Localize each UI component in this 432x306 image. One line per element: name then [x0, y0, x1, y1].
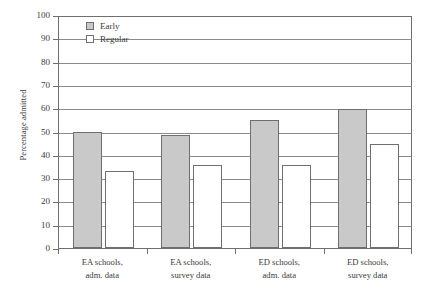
legend-label-early: Early — [100, 21, 120, 31]
bar-early-3 — [250, 120, 279, 248]
legend-label-regular: Regular — [100, 34, 129, 44]
y-tick-label-10: 10 — [0, 221, 50, 230]
x-axis-label-3-line-2: adm. data — [235, 269, 324, 282]
gridline-100 — [59, 16, 412, 17]
x-axis-label-4-line-2: survey data — [324, 269, 413, 282]
x-axis-label-4-line-1: ED schools, — [347, 257, 389, 267]
gridline-70 — [59, 86, 412, 87]
x-tick-mark-4 — [411, 249, 412, 254]
y-tick-label-60: 60 — [0, 104, 50, 113]
bar-chart-figure: Percentage admitted 10090807060504030201… — [0, 0, 432, 306]
y-tick-label-90: 90 — [0, 34, 50, 43]
y-tick-label-20: 20 — [0, 197, 50, 206]
x-axis-tick-marks — [58, 249, 412, 255]
gray-swatch-icon — [86, 22, 94, 30]
white-swatch-icon — [86, 35, 94, 43]
y-tick-label-30: 30 — [0, 174, 50, 183]
plot-area — [58, 16, 412, 249]
x-tick-mark-0 — [58, 249, 59, 254]
bar-regular-1 — [105, 171, 134, 248]
x-tick-mark-3 — [324, 249, 325, 254]
bar-regular-4 — [370, 144, 399, 248]
bar-early-2 — [161, 135, 190, 248]
x-axis-label-2-line-2: survey data — [147, 269, 236, 282]
x-axis-label-1: EA schools,adm. data — [58, 256, 147, 281]
chart-legend: Early Regular — [86, 19, 166, 45]
y-tick-label-80: 80 — [0, 58, 50, 67]
bar-regular-3 — [282, 165, 311, 248]
x-axis-label-3-line-1: ED schools, — [258, 257, 300, 267]
y-axis-tick-labels: 1009080706050403020100 — [0, 16, 54, 249]
x-axis-label-3: ED schools,adm. data — [235, 256, 324, 281]
gridline-80 — [59, 63, 412, 64]
x-axis-label-2-line-1: EA schools, — [170, 257, 211, 267]
bar-early-1 — [73, 132, 102, 249]
x-axis-label-2: EA schools,survey data — [147, 256, 236, 281]
y-tick-label-40: 40 — [0, 151, 50, 160]
legend-item-early: Early — [86, 19, 166, 32]
bar-early-4 — [338, 109, 367, 248]
x-axis-label-4: ED schools,survey data — [324, 256, 413, 281]
y-tick-label-0: 0 — [0, 244, 50, 253]
x-axis-labels: EA schools,adm. dataEA schools,survey da… — [58, 256, 412, 296]
x-tick-mark-2 — [235, 249, 236, 254]
x-axis-label-1-line-1: EA schools, — [82, 257, 123, 267]
x-tick-mark-1 — [147, 249, 148, 254]
x-axis-label-1-line-2: adm. data — [58, 269, 147, 282]
y-tick-label-50: 50 — [0, 128, 50, 137]
y-tick-label-70: 70 — [0, 81, 50, 90]
legend-item-regular: Regular — [86, 32, 166, 45]
y-tick-label-100: 100 — [0, 11, 50, 20]
bar-regular-2 — [193, 165, 222, 248]
